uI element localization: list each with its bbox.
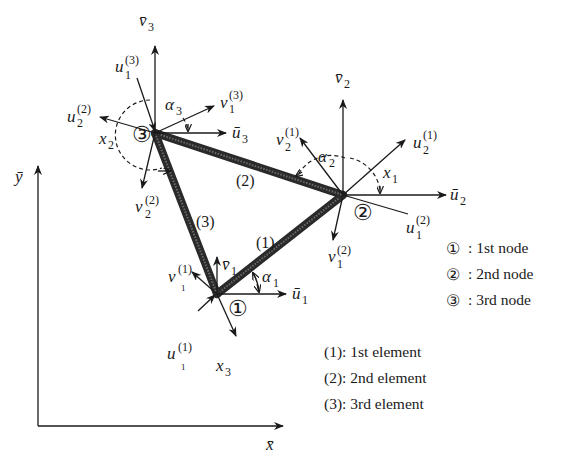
node-1-marker: ① xyxy=(228,296,248,321)
svg-text:1: 1 xyxy=(231,264,237,278)
alpha3-label: α xyxy=(165,95,175,114)
svg-text:1: 1 xyxy=(302,293,308,307)
svg-text:1: 1 xyxy=(181,362,186,372)
legend-element-3: (3): 3rd element xyxy=(324,395,425,413)
truss-diagram: ȳ x̄ (1) (2) (3) ③ v̄ 3 xyxy=(0,0,571,467)
u2-2-label: u xyxy=(67,107,76,126)
legend-node-1-text: : 1st node xyxy=(468,239,528,256)
svg-text:(1): (1) xyxy=(178,262,192,276)
u1-3-label: u xyxy=(115,57,124,76)
alpha1-label: α xyxy=(262,267,272,286)
svg-text:3: 3 xyxy=(242,132,248,146)
u-bar-2-label: ū xyxy=(450,185,459,204)
element-1 xyxy=(217,195,343,294)
u2-1-arrow xyxy=(343,140,405,195)
legend-node-3-text: : 3rd node xyxy=(468,291,531,308)
y-axis-label: ȳ xyxy=(13,167,23,186)
svg-text:3: 3 xyxy=(176,104,182,118)
svg-text:2: 2 xyxy=(460,194,466,208)
svg-text:(2): (2) xyxy=(337,243,351,257)
legend-node-3-marker: ③ xyxy=(446,292,460,309)
x2-axis-label: x xyxy=(98,129,107,148)
element-2-label: (2) xyxy=(236,172,255,190)
svg-text:1: 1 xyxy=(273,276,279,290)
u-bar-3-label: ū xyxy=(232,123,241,142)
svg-text:(2): (2) xyxy=(145,193,159,207)
x-axis-label: x̄ xyxy=(265,435,274,454)
svg-text:2: 2 xyxy=(423,143,429,157)
svg-text:1: 1 xyxy=(392,172,398,186)
u1-1-arrow xyxy=(198,295,215,311)
u-bar-1-label: ū xyxy=(292,284,301,303)
v1-1-label: v xyxy=(168,267,176,286)
x1-axis-label: x xyxy=(382,163,391,182)
node-3-marker: ③ xyxy=(132,122,152,147)
v-bar-1-label: v̄ xyxy=(222,255,230,274)
v1-3-label: v xyxy=(220,93,228,112)
element-1-label: (1) xyxy=(256,234,275,252)
x3-axis-label: x xyxy=(215,356,224,375)
node-3: ③ v̄ 3 ū 3 u (3) 1 v (3) 1 α 3 u (2) 2 … xyxy=(67,11,248,221)
v1-2-label: v xyxy=(328,247,336,266)
svg-text:2: 2 xyxy=(329,156,335,170)
svg-text:(2): (2) xyxy=(77,102,91,116)
legend-node-2-text: : 2nd node xyxy=(468,265,534,282)
node-2-marker: ② xyxy=(353,200,373,225)
svg-text:(3): (3) xyxy=(229,88,243,102)
svg-text:1: 1 xyxy=(181,283,186,293)
svg-text:(1): (1) xyxy=(423,128,437,142)
svg-text:3: 3 xyxy=(148,20,154,34)
svg-text:1: 1 xyxy=(337,257,343,271)
svg-text:(2): (2) xyxy=(416,213,430,227)
legend-element-1: (1): 1st element xyxy=(324,343,422,361)
legend-element-2: (2): 2nd element xyxy=(324,369,427,387)
node-legend: ① : 1st node ② : 2nd node ③ : 3rd node xyxy=(446,239,534,309)
u1-2-label: u xyxy=(406,218,415,237)
svg-text:3: 3 xyxy=(225,365,231,379)
svg-text:1: 1 xyxy=(125,68,131,82)
svg-text:(1): (1) xyxy=(178,340,192,354)
v-bar-2-label: v̄ xyxy=(335,68,343,87)
svg-text:2: 2 xyxy=(108,138,114,152)
v2-2-label: v xyxy=(135,197,143,216)
element-legend: (1): 1st element (2): 2nd element (3): 3… xyxy=(324,343,427,413)
legend-node-2-marker: ② xyxy=(446,266,460,283)
svg-text:2: 2 xyxy=(77,116,83,130)
svg-text:2: 2 xyxy=(285,140,291,154)
svg-text:2: 2 xyxy=(145,207,151,221)
node-2: ② v̄ 2 ū 2 u (1) 2 v (1) 2 α 2 x 1 u (2… xyxy=(276,68,466,271)
svg-text:(3): (3) xyxy=(125,53,139,67)
element-3-label: (3) xyxy=(196,213,215,231)
v2-1-label: v xyxy=(276,130,284,149)
u1-1-label: u xyxy=(167,344,176,363)
svg-text:2: 2 xyxy=(344,77,350,91)
svg-text:(1): (1) xyxy=(285,125,299,139)
svg-text:1: 1 xyxy=(229,102,235,116)
v-bar-3-label: v̄ xyxy=(139,11,147,30)
svg-text:1: 1 xyxy=(416,228,422,242)
legend-node-1-marker: ① xyxy=(446,240,460,257)
alpha3-arc-small xyxy=(183,118,188,130)
u2-1-label: u xyxy=(413,133,422,152)
alpha2-label: α xyxy=(318,147,328,166)
